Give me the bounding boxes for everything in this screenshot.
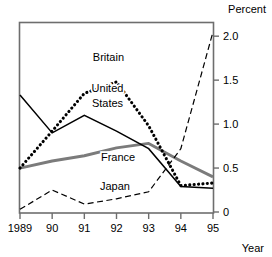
- x-tick-label: 91: [78, 222, 90, 234]
- y-tick-label: 2.0: [223, 30, 238, 42]
- y-tick-label: 1.5: [223, 74, 238, 86]
- series-label-britain: Britain: [93, 51, 124, 63]
- x-tick-label: 90: [46, 222, 58, 234]
- x-tick-label: 94: [175, 222, 187, 234]
- x-tick-label: 93: [143, 222, 155, 234]
- series-label-united: United: [92, 82, 124, 94]
- series-label-japan: Japan: [100, 180, 130, 192]
- y-axis-ticks: 00.51.01.52.0: [213, 30, 238, 218]
- x-tick-label: 95: [207, 222, 219, 234]
- y-tick-label: 1.0: [223, 118, 238, 130]
- y-tick-label: 0: [223, 206, 229, 218]
- series-line-united-states: [20, 95, 213, 188]
- x-tick-label: 92: [110, 222, 122, 234]
- line-chart-plot: 00.51.01.52.0 1989909192939495 BritainBr…: [0, 0, 272, 257]
- x-axis-ticks: 1989909192939495: [8, 213, 219, 234]
- x-tick-label: 1989: [8, 222, 32, 234]
- series-label-france: France: [101, 151, 135, 163]
- chart-container: Percent Year 00.51.01.52.0 1989909192939…: [0, 0, 272, 257]
- series-label-states: States: [92, 97, 124, 109]
- y-tick-label: 0.5: [223, 162, 238, 174]
